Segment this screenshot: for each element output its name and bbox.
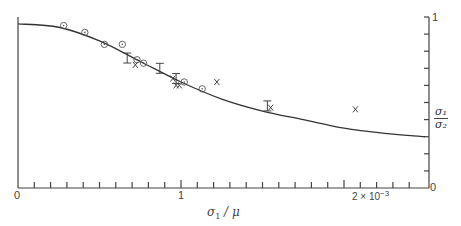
theory-curve <box>18 24 426 137</box>
circle-marker-dot <box>201 88 203 90</box>
x-tick-label-2-base: 2 × 10 <box>352 191 380 202</box>
y-tick-label-0: 0 <box>430 181 436 193</box>
cross-marker <box>353 106 358 112</box>
error-bar-marker <box>123 53 131 63</box>
curve-path <box>18 24 426 137</box>
x-tick-label-0: 0 <box>14 189 20 201</box>
circle-marker-dot <box>104 44 106 46</box>
y-tick-label-1: 1 <box>432 11 438 23</box>
circle-marker-dot <box>136 59 138 61</box>
circle-marker-dot <box>63 25 65 27</box>
cross-marker <box>268 105 273 111</box>
axes <box>18 17 429 188</box>
error-bar-marker <box>263 101 271 111</box>
chart-plot <box>0 0 461 226</box>
x-tick-label-1: 1 <box>178 189 184 201</box>
x-tick-label-2-exp: −3 <box>380 189 389 198</box>
x-axis-label: σ1 / μ <box>207 205 240 221</box>
cross-marker <box>214 79 219 85</box>
error-bar-marker <box>156 63 164 73</box>
x-tick-label-2: 2 × 10−3 <box>352 189 389 202</box>
circle-marker-dot <box>143 62 145 64</box>
data-markers <box>60 22 357 112</box>
circle-marker-dot <box>183 81 185 83</box>
x-axis-label-sigma: σ <box>207 205 215 219</box>
circle-marker-dot <box>122 44 124 46</box>
x-axis-label-rest: / μ <box>220 205 239 219</box>
y-axis-label: σ₁ σ₂ <box>434 106 448 131</box>
y-axis-label-denominator: σ₂ <box>434 119 448 131</box>
circle-marker-dot <box>84 32 86 34</box>
